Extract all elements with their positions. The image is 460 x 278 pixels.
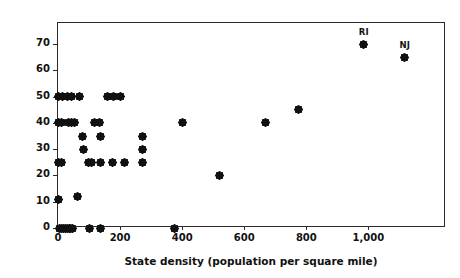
x-axis-tick-label: 0 (55, 232, 62, 243)
data-point (56, 157, 66, 167)
x-axis-tick-label: 1,000 (353, 232, 385, 243)
data-point (261, 118, 271, 128)
data-point (95, 118, 105, 128)
x-axis-tick-label: 600 (234, 232, 255, 243)
data-point-label-ri: RI (359, 27, 369, 37)
data-point (137, 157, 147, 167)
y-axis-tick: 60 (53, 70, 58, 71)
data-point (72, 192, 82, 202)
x-axis-tick-label: 400 (172, 232, 193, 243)
data-point (214, 170, 224, 180)
x-axis-tick-label: 200 (110, 232, 131, 243)
y-axis-tick-label: 30 (36, 142, 50, 153)
y-axis-tick-label: 50 (36, 90, 50, 101)
data-point (85, 223, 95, 233)
data-point (137, 144, 147, 154)
data-point (294, 105, 304, 115)
data-point-ri (359, 39, 369, 49)
y-axis-tick-label: 60 (36, 63, 50, 74)
y-axis-tick-label: 10 (36, 195, 50, 206)
plot-area: 010203040506070 02004006008001,000 RINJ (57, 22, 445, 227)
scatter-chart-figure: State recycling target (percent) 0102030… (0, 0, 460, 278)
y-axis-tick-label: 40 (36, 116, 50, 127)
x-axis-label: State density (population per square mil… (57, 255, 445, 267)
x-axis-tick-label: 800 (296, 232, 317, 243)
x-axis-tick: 200 (120, 226, 121, 230)
data-point (74, 92, 84, 102)
x-axis-tick: 800 (306, 226, 307, 230)
data-point (137, 131, 147, 141)
data-point (96, 223, 106, 233)
y-axis-tick: 70 (53, 44, 58, 45)
data-point (177, 118, 187, 128)
data-point (95, 131, 105, 141)
data-point-nj (399, 52, 409, 62)
data-point (107, 157, 117, 167)
data-point (53, 194, 63, 204)
x-axis-tick: 400 (182, 226, 183, 230)
y-axis-tick-label: 0 (43, 221, 50, 232)
data-point (78, 131, 88, 141)
data-point (169, 223, 179, 233)
data-point (68, 223, 78, 233)
data-point (115, 92, 125, 102)
y-axis-tick: 20 (53, 175, 58, 176)
y-axis-tick-label: 20 (36, 168, 50, 179)
x-axis-tick: 600 (244, 226, 245, 230)
data-point (95, 157, 105, 167)
data-point (119, 157, 129, 167)
y-axis-tick: 30 (53, 149, 58, 150)
y-axis-tick-label: 70 (36, 37, 50, 48)
data-point (78, 144, 88, 154)
x-axis-tick: 1,000 (368, 226, 369, 230)
data-point-label-nj: NJ (399, 40, 410, 50)
